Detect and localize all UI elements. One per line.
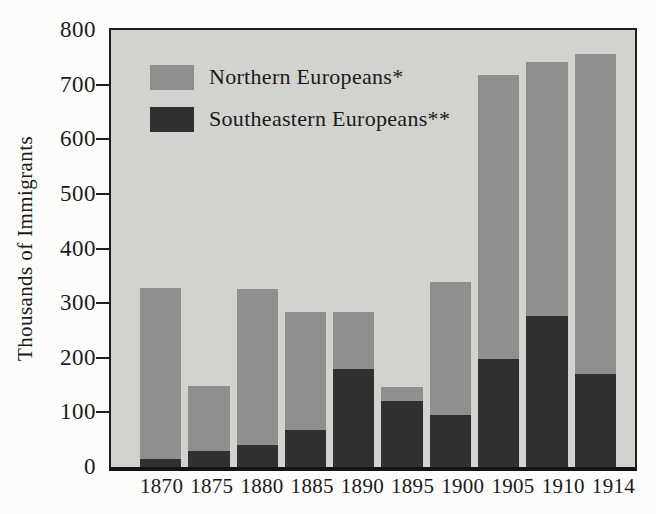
y-tick-label: 500 xyxy=(60,181,96,204)
legend: Northern Europeans* Southeastern Europea… xyxy=(150,64,450,132)
y-tick-mark xyxy=(96,138,109,140)
bar-1914 xyxy=(575,54,616,468)
legend-item-southeastern: Southeastern Europeans** xyxy=(150,106,450,132)
bar-segment-southeastern xyxy=(430,415,471,467)
y-tick-mark xyxy=(96,248,109,250)
bar-segment-southeastern xyxy=(526,316,567,467)
y-tick-mark xyxy=(96,411,109,413)
bar-segment-northern xyxy=(140,288,181,458)
y-tick-label: 100 xyxy=(60,400,96,423)
legend-item-northern: Northern Europeans* xyxy=(150,64,450,90)
northern-europeans-swatch-icon xyxy=(150,65,194,90)
y-tick-label: 800 xyxy=(60,18,96,41)
y-tick-mark xyxy=(96,302,109,304)
x-tick-label: 1900 xyxy=(441,474,484,499)
bar-segment-southeastern xyxy=(188,451,229,467)
bar-1900 xyxy=(430,282,471,467)
bar-1875 xyxy=(188,386,229,467)
bar-segment-northern xyxy=(575,54,616,375)
bar-1885 xyxy=(285,312,326,467)
bar-segment-northern xyxy=(526,62,567,317)
bar-segment-southeastern xyxy=(285,430,326,467)
x-tick-label: 1875 xyxy=(190,474,233,499)
x-tick-label: 1890 xyxy=(341,474,384,499)
bar-segment-northern xyxy=(285,312,326,429)
y-axis-title: Thousands of Immigrants xyxy=(8,30,42,467)
bar-segment-northern xyxy=(237,289,278,445)
x-tick-label: 1885 xyxy=(291,474,334,499)
x-axis-labels: 1870187518801885189018951900190519101914 xyxy=(111,474,633,499)
x-tick-label: 1905 xyxy=(491,474,534,499)
bar-1880 xyxy=(237,289,278,467)
y-tick-mark xyxy=(96,193,109,195)
legend-label-northern: Northern Europeans* xyxy=(209,64,403,90)
bar-1910 xyxy=(526,62,567,467)
y-tick-mark xyxy=(96,357,109,359)
immigration-bar-chart: Thousands of Immigrants 0100200300400500… xyxy=(0,0,656,514)
bar-1895 xyxy=(381,387,422,467)
y-tick-label: 700 xyxy=(60,72,96,95)
y-tick-label: 200 xyxy=(60,345,96,368)
bar-segment-southeastern xyxy=(381,401,422,467)
legend-label-southeastern: Southeastern Europeans** xyxy=(209,106,450,132)
bar-segment-southeastern xyxy=(140,459,181,467)
y-tick-mark xyxy=(96,84,109,86)
y-tick-label: 300 xyxy=(60,291,96,314)
bar-segment-northern xyxy=(478,75,519,360)
bar-segment-southeastern xyxy=(237,445,278,467)
x-tick-label: 1910 xyxy=(542,474,585,499)
y-tick-label: 0 xyxy=(84,455,96,478)
bar-segment-southeastern xyxy=(478,359,519,467)
bar-1870 xyxy=(140,288,181,467)
bar-segment-northern xyxy=(333,312,374,368)
bar-1890 xyxy=(333,312,374,467)
y-tick-label: 400 xyxy=(60,236,96,259)
x-tick-label: 1870 xyxy=(140,474,183,499)
y-axis-title-text: Thousands of Immigrants xyxy=(13,136,38,361)
bar-segment-northern xyxy=(188,386,229,450)
bar-1905 xyxy=(478,75,519,467)
bar-segment-northern xyxy=(381,387,422,401)
bar-segment-northern xyxy=(430,282,471,415)
y-tick-label: 600 xyxy=(60,127,96,150)
southeastern-europeans-swatch-icon xyxy=(150,107,194,132)
bar-segment-southeastern xyxy=(333,369,374,467)
x-tick-label: 1880 xyxy=(240,474,283,499)
x-tick-label: 1914 xyxy=(592,474,635,499)
bar-segment-southeastern xyxy=(575,374,616,467)
x-tick-label: 1895 xyxy=(391,474,434,499)
